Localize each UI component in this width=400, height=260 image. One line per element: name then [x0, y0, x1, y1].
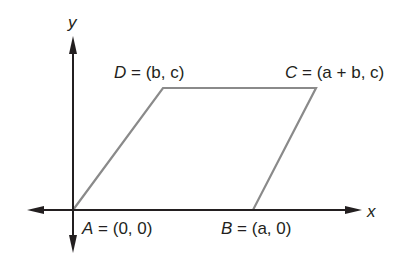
vertex-c-label: C = (a + b, c) [285, 63, 384, 82]
parallelogram-abcd [73, 88, 316, 210]
vertex-b-label: B = (a, 0) [221, 219, 291, 238]
x-axis-label: x [366, 202, 376, 221]
vertex-a-label: A = (0, 0) [81, 219, 152, 238]
y-axis-up-arrow-icon [69, 36, 77, 54]
x-axis-right-arrow-icon [345, 206, 362, 214]
y-axis-label: y [67, 13, 78, 32]
vertex-d-label: D = (b, c) [114, 63, 184, 82]
x-axis-left-arrow-icon [27, 206, 44, 214]
y-axis-down-arrow-icon [69, 235, 77, 253]
coordinate-diagram: y x A = (0, 0) B = (a, 0) C = (a + b, c)… [0, 0, 400, 260]
